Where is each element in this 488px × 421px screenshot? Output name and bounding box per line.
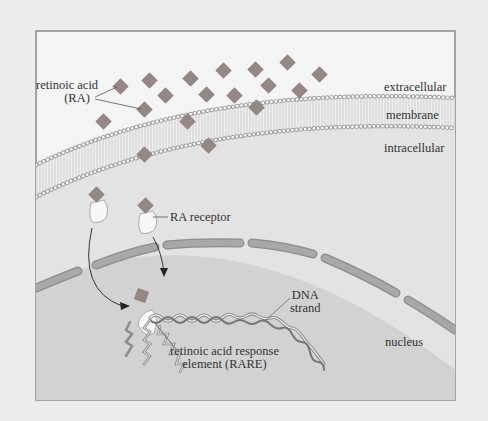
label-membrane: membrane (386, 109, 439, 122)
diagram-stage: retinoic acid (RA) extracellular membran… (0, 0, 488, 421)
label-rare: retinoic acid response element (RARE) (170, 345, 279, 371)
label-intracellular: intracellular (384, 142, 444, 155)
label-retinoic-acid: retinoic acid (RA) (36, 79, 98, 105)
label-dna-strand: DNA strand (290, 289, 321, 315)
label-extracellular: extracellular (384, 81, 446, 94)
label-nucleus: nucleus (385, 336, 423, 349)
label-ra-receptor: RA receptor (170, 211, 231, 224)
